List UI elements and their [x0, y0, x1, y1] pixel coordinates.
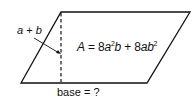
term2-exponent: 2 — [154, 40, 158, 47]
base-text: base — [57, 86, 81, 98]
height-var-b: b — [36, 24, 42, 36]
base-label: base = ? — [57, 87, 100, 98]
height-leader-line — [34, 38, 59, 53]
height-plus: + — [26, 24, 32, 36]
area-symbol: A — [77, 40, 85, 54]
area-equals: = — [88, 40, 95, 54]
term1-var-b: b — [115, 40, 121, 54]
area-plus: + — [124, 40, 131, 54]
area-formula: A = 8a2b + 8ab2 — [77, 41, 157, 53]
base-equals: = — [84, 86, 90, 98]
height-var-a: a — [17, 24, 23, 36]
base-value: ? — [93, 86, 99, 98]
leader-arrowhead-icon — [56, 50, 61, 54]
height-label: a + b — [17, 25, 42, 36]
